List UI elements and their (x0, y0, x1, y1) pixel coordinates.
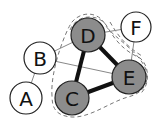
node-label: B (33, 47, 47, 71)
node-b: B (24, 42, 56, 74)
node-label: A (19, 87, 33, 111)
node-d: D (71, 18, 105, 52)
node-a: A (10, 82, 42, 114)
node-label: C (65, 87, 79, 111)
graph-diagram: ABCDEF (0, 0, 164, 125)
node-f: F (121, 12, 151, 42)
node-label: D (80, 24, 95, 48)
node-c: C (55, 81, 89, 115)
node-label: E (123, 66, 136, 90)
node-e: E (112, 60, 146, 94)
node-label: F (130, 16, 142, 40)
